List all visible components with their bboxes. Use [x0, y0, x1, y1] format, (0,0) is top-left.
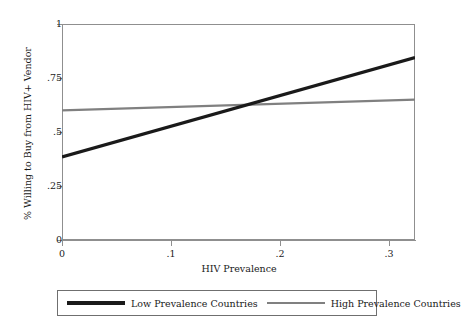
y-tick-label-text: .25: [28, 181, 62, 191]
y-tick-label-text: 1: [28, 19, 62, 29]
x-tick-label-30: .3: [369, 248, 409, 259]
x-tick-mark: [280, 241, 281, 246]
x-tick-mark: [389, 241, 390, 246]
series-layer: [62, 24, 415, 240]
legend-swatch-low-prevalence-icon: [67, 301, 125, 304]
y-axis-title: % Willing to Buy from HIV+ Vendor: [22, 24, 33, 244]
legend-swatch-high-prevalence-icon: [267, 302, 325, 304]
legend-label-low-prevalence: Low Prevalence Countries: [125, 298, 258, 309]
legend-label-high-prevalence: High Prevalence Countries: [325, 298, 461, 309]
y-tick-label-text: 0: [28, 235, 62, 245]
x-axis-title: HIV Prevalence: [62, 263, 416, 274]
x-axis-line: [62, 240, 416, 241]
y-tick-label-text: .5: [28, 127, 62, 137]
x-tick-label-0: 0: [42, 248, 82, 259]
y-tick-label-text: .75: [28, 73, 62, 83]
legend-entry-low-prevalence[interactable]: Low Prevalence Countries: [58, 298, 258, 309]
x-tick-mark: [171, 241, 172, 246]
legend-entry-high-prevalence[interactable]: High Prevalence Countries: [258, 298, 461, 309]
x-tick-label-10: .1: [151, 248, 191, 259]
x-tick-mark: [62, 241, 63, 246]
series-line-low-prevalence: [62, 57, 415, 156]
chart-legend: Low Prevalence Countries High Prevalence…: [57, 290, 377, 316]
x-tick-label-20: .2: [260, 248, 300, 259]
